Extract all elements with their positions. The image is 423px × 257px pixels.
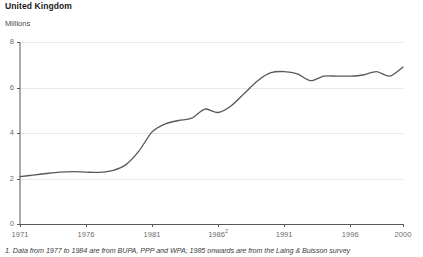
y-tick-label: 0 bbox=[2, 219, 14, 228]
x-tick-label: 2000 bbox=[395, 230, 412, 239]
x-tick-label: 1976 bbox=[78, 230, 95, 239]
y-tick-label: 4 bbox=[2, 128, 14, 137]
x-tick-label: 19862 bbox=[208, 230, 228, 239]
x-tick-footnote-marker: 2 bbox=[225, 228, 228, 234]
x-tick-label: 1991 bbox=[276, 230, 293, 239]
x-tick-label: 1971 bbox=[12, 230, 29, 239]
y-tick-label: 8 bbox=[2, 37, 14, 46]
line-chart-plot bbox=[0, 0, 423, 257]
data-series-line bbox=[20, 67, 403, 177]
chart-figure: United Kingdom Millions 02468 1971197619… bbox=[0, 0, 423, 257]
x-tick-label: 1981 bbox=[144, 230, 161, 239]
y-tick-label: 2 bbox=[2, 174, 14, 183]
chart-footnote: 1. Data from 1977 to 1984 are from BUPA,… bbox=[5, 246, 350, 255]
y-tick-label: 6 bbox=[2, 83, 14, 92]
x-tick-label: 1996 bbox=[342, 230, 359, 239]
